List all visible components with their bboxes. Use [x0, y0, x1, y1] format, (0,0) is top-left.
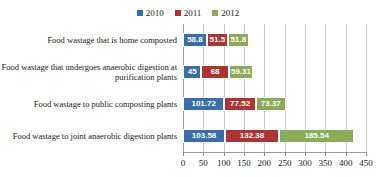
tick-label: 100 [217, 158, 231, 168]
bar-segment-2010[interactable]: 101.72 [183, 97, 224, 111]
bar-segment-2012[interactable]: 73.37 [256, 97, 286, 111]
bar-segment-2011[interactable]: 51.5 [207, 33, 228, 47]
bar-segment-2010[interactable]: 103.58 [183, 129, 225, 143]
bar-value-label: 45 [188, 68, 197, 76]
tick-mark [305, 152, 306, 156]
bar-value-label: 51.5 [210, 36, 226, 44]
bar-segment-2011[interactable]: 68 [201, 65, 229, 79]
category-axis-labels: Food wastage that is home composted Food… [0, 24, 180, 152]
bar-value-label: 58.8 [187, 36, 203, 44]
legend-label-2012: 2012 [221, 9, 239, 18]
bar-segment-2012[interactable]: 59.31 [229, 65, 253, 79]
tick-label: 250 [278, 158, 292, 168]
tick-label: 350 [319, 158, 333, 168]
bar-segment-2010[interactable]: 58.8 [183, 33, 207, 47]
tick-mark [183, 152, 184, 156]
bar-segment-2011[interactable]: 132.38 [225, 129, 279, 143]
bar-value-label: 51.8 [231, 36, 247, 44]
bar-segment-2010[interactable]: 45 [183, 65, 201, 79]
bar-segment-2012[interactable]: 51.8 [228, 33, 249, 47]
stacked-bar-chart: 2010 2011 2012 Food wastage that is home… [0, 0, 376, 177]
plot-area: 58.851.551.8456859.31101.7277.5273.37103… [183, 24, 366, 152]
bar-value-label: 59.31 [231, 68, 251, 76]
legend-swatch-2012 [212, 10, 218, 16]
tick-mark [244, 152, 245, 156]
category-label-2: Food wastage to public composting plants [0, 88, 177, 120]
category-label-1: Food wastage that undergoes anaerobic di… [0, 56, 177, 88]
tick-label: 50 [199, 158, 208, 168]
bar-value-label: 68 [211, 68, 220, 76]
bar-value-label: 101.72 [191, 100, 215, 108]
legend-item-2011[interactable]: 2011 [175, 9, 202, 18]
legend-label-2011: 2011 [184, 9, 202, 18]
tick-label: 300 [298, 158, 312, 168]
tick-label: 150 [237, 158, 251, 168]
value-axis-ticks: 050100150200250300350400450 [183, 152, 366, 172]
bar-row[interactable]: 103.58132.38185.54 [183, 129, 354, 143]
category-label-3: Food wastage to joint anaerobic digestio… [0, 120, 177, 152]
bar-value-label: 103.58 [192, 132, 216, 140]
tick-mark [224, 152, 225, 156]
legend-label-2010: 2010 [146, 9, 164, 18]
gridline [366, 24, 367, 152]
tick-label: 0 [181, 158, 186, 168]
chart-legend: 2010 2011 2012 [0, 6, 376, 20]
legend-swatch-2011 [175, 10, 181, 16]
legend-item-2010[interactable]: 2010 [137, 9, 164, 18]
bar-series-container: 58.851.551.8456859.31101.7277.5273.37103… [183, 24, 366, 152]
bar-value-label: 185.54 [304, 132, 328, 140]
bar-row[interactable]: 456859.31 [183, 65, 253, 79]
tick-label: 400 [339, 158, 353, 168]
bar-row[interactable]: 58.851.551.8 [183, 33, 249, 47]
bar-value-label: 73.37 [261, 100, 281, 108]
tick-label: 450 [359, 158, 373, 168]
legend-swatch-2010 [137, 10, 143, 16]
tick-mark [346, 152, 347, 156]
bar-segment-2012[interactable]: 185.54 [279, 129, 354, 143]
tick-mark [203, 152, 204, 156]
tick-mark [285, 152, 286, 156]
bar-row[interactable]: 101.7277.5273.37 [183, 97, 286, 111]
category-label-0: Food wastage that is home composted [0, 24, 177, 56]
tick-mark [264, 152, 265, 156]
tick-label: 200 [258, 158, 272, 168]
tick-mark [325, 152, 326, 156]
bar-value-label: 77.52 [230, 100, 250, 108]
tick-mark [366, 152, 367, 156]
bar-segment-2011[interactable]: 77.52 [224, 97, 256, 111]
legend-item-2012[interactable]: 2012 [212, 9, 239, 18]
bar-value-label: 132.38 [240, 132, 264, 140]
